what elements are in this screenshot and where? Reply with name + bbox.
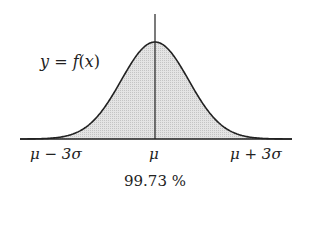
curve-label: y = f(x) <box>40 52 100 71</box>
tick-mu: μ <box>149 145 159 163</box>
percent-label: 99.73 % <box>124 172 186 190</box>
tick-mu-minus-3sigma: μ − 3σ <box>30 145 82 163</box>
tick-mu-plus-3sigma: μ + 3σ <box>230 145 282 163</box>
